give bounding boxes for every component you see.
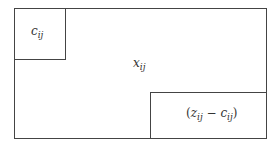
close-paren: ) [233,106,238,120]
z-minus-c-label: (zij − cij) [186,106,237,120]
minus-sign: − [203,106,221,120]
c-symbol: c [31,24,38,38]
c-subscript: ij [38,30,44,40]
x-symbol: x [133,56,140,70]
x-subscript: ij [140,62,146,72]
x-ij-label: xij [133,56,145,70]
c-subscript-2: ij [227,112,233,122]
c-ij-label: cij [31,24,43,38]
z-subscript: ij [197,112,203,122]
